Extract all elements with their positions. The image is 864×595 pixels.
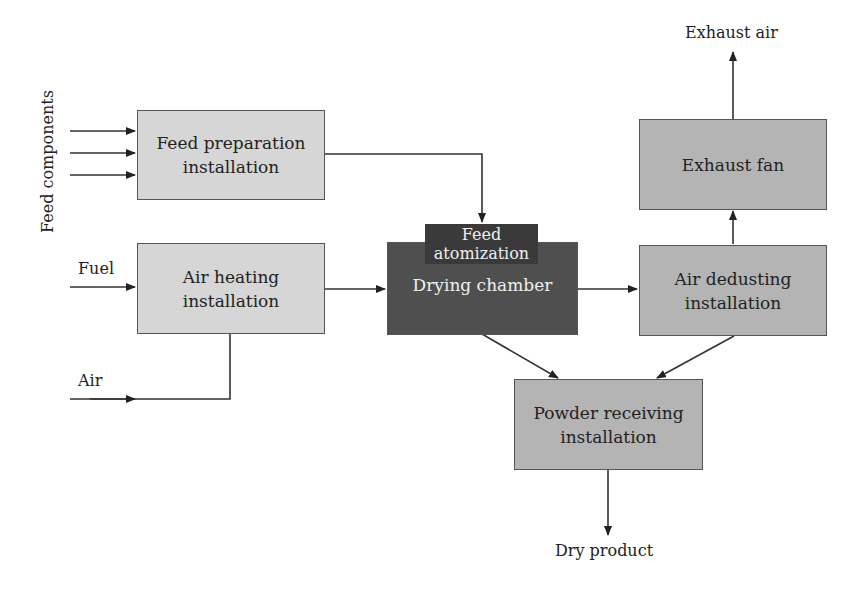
arrow-dedusting-to-powder	[657, 336, 734, 378]
fuel-label: Fuel	[78, 259, 114, 278]
dry-product-label: Dry product	[555, 541, 653, 560]
air-label: Air	[78, 371, 102, 390]
feed-components-label: Feed components	[38, 90, 57, 233]
air-dedusting-installation: Air dedusting installation	[639, 245, 827, 336]
feed-atomization: Feed atomization	[425, 224, 538, 264]
air-heating-installation: Air heating installation	[137, 243, 325, 334]
exhaust-fan: Exhaust fan	[639, 119, 827, 210]
arrow-feedprep-to-atomization	[324, 154, 482, 222]
arrow-chamber-to-powder	[482, 334, 558, 378]
feed-preparation-installation: Feed preparation installation	[137, 110, 325, 200]
exhaust-air-label: Exhaust air	[685, 23, 778, 42]
powder-receiving-installation: Powder receiving installation	[514, 379, 703, 470]
